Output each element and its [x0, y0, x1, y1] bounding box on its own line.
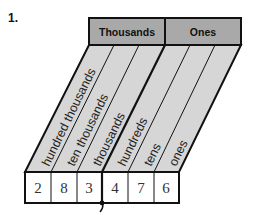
period-headers: Thousands Ones: [89, 18, 241, 45]
place-value-chart: Thousands Ones hundred thousands ten tho…: [0, 0, 258, 219]
digit-boxes: 2 8 3 4 7 6: [25, 172, 179, 212]
digit-thousands: 3: [85, 180, 93, 196]
period-ones-label: Ones: [190, 26, 216, 38]
digit-tens: 7: [137, 180, 145, 196]
digit-hundreds: 4: [111, 180, 119, 196]
period-thousands-label: Thousands: [99, 26, 155, 38]
digit-ten-thousands: 8: [60, 180, 68, 196]
digit-hundred-thousands: 2: [34, 180, 42, 196]
digit-ones: 6: [162, 180, 170, 196]
slanted-columns: hundred thousands ten thousands thousand…: [25, 45, 241, 172]
